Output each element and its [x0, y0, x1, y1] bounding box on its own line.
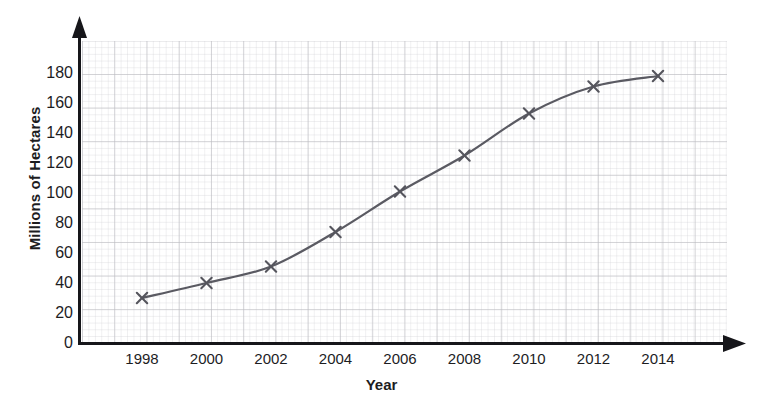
data-point-marker-x	[524, 108, 534, 118]
data-point-marker-x	[459, 150, 469, 160]
data-point-marker-x	[266, 261, 276, 271]
data-series-line	[142, 76, 658, 298]
y-axis-title: Millions of Hectares	[26, 79, 43, 279]
data-point-markers	[137, 71, 663, 303]
y-axis-line	[72, 16, 87, 344]
x-axis-title: Year	[0, 376, 763, 393]
series-path	[142, 76, 658, 298]
x-axis-line	[78, 335, 746, 352]
chart-screenshot: 020406080100120140160180 199820002002200…	[0, 0, 763, 401]
chart-axes-and-series	[0, 0, 763, 401]
data-point-marker-x	[330, 227, 340, 237]
data-point-marker-x	[395, 186, 405, 196]
